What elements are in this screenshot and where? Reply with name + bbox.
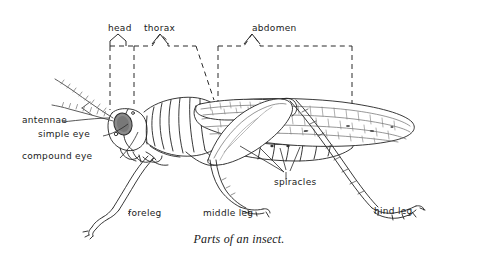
bracket-label-abdomen: abdomen	[252, 24, 297, 33]
bracket-head	[110, 34, 134, 110]
insect-anatomy-figure: head thorax abdomen antennae simple eye …	[0, 0, 478, 259]
figure-caption: Parts of an insect.	[0, 232, 478, 247]
part-label-middle-leg: middle leg	[203, 209, 253, 218]
bracket-thorax	[134, 34, 214, 100]
part-label-simple-eye: simple eye	[38, 130, 90, 139]
part-label-compound-eye: compound eye	[22, 152, 92, 161]
bracket-label-thorax: thorax	[144, 24, 175, 33]
bracket-label-head: head	[108, 24, 132, 33]
foreleg-shape	[83, 152, 156, 239]
part-label-hind-leg: hind leg	[374, 207, 413, 216]
bracket-abdomen	[218, 34, 352, 104]
part-label-spiracles: spiracles	[274, 178, 317, 187]
part-label-antennae: antennae	[22, 116, 67, 125]
bracket-group	[110, 34, 352, 110]
part-label-foreleg: foreleg	[128, 209, 162, 218]
